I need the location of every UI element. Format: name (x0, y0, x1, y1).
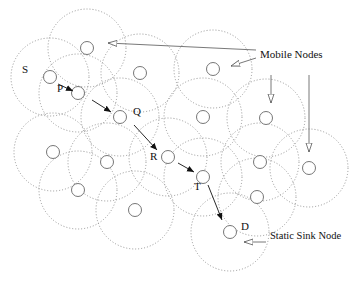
route-arrow-3 (178, 163, 194, 172)
node-n5 (207, 63, 220, 76)
node-P (72, 87, 85, 100)
nodes (44, 42, 316, 239)
node-n1 (81, 42, 94, 55)
node-R (162, 151, 175, 164)
node-label-R: R (150, 151, 157, 162)
node-S (44, 71, 57, 84)
node-n12 (254, 156, 267, 169)
node-label-Q: Q (133, 106, 141, 117)
node-label-S: S (22, 64, 28, 75)
mobile-network-diagram: SPQRTD Mobile Nodes Static Sink Node (0, 0, 362, 281)
route-arrow-1 (92, 100, 111, 112)
mobile-nodes-label: Mobile Nodes (260, 49, 323, 60)
callout-arrow-0 (108, 43, 256, 50)
node-n9 (47, 146, 60, 159)
node-n8 (260, 112, 273, 125)
node-label-D: D (241, 221, 249, 232)
node-n13 (303, 162, 316, 175)
node-n17 (129, 204, 142, 217)
callout-arrow-1 (231, 58, 256, 66)
node-label-T: T (194, 181, 201, 192)
node-D (224, 226, 237, 239)
node-n15 (72, 184, 85, 197)
node-n4 (134, 67, 147, 80)
route-arrow-4 (208, 185, 222, 220)
node-n7 (197, 111, 210, 124)
node-Q (114, 111, 127, 124)
node-n16 (251, 191, 264, 204)
node-n10 (101, 156, 114, 169)
static-sink-node-label: Static Sink Node (270, 231, 341, 242)
node-label-P: P (57, 83, 63, 94)
